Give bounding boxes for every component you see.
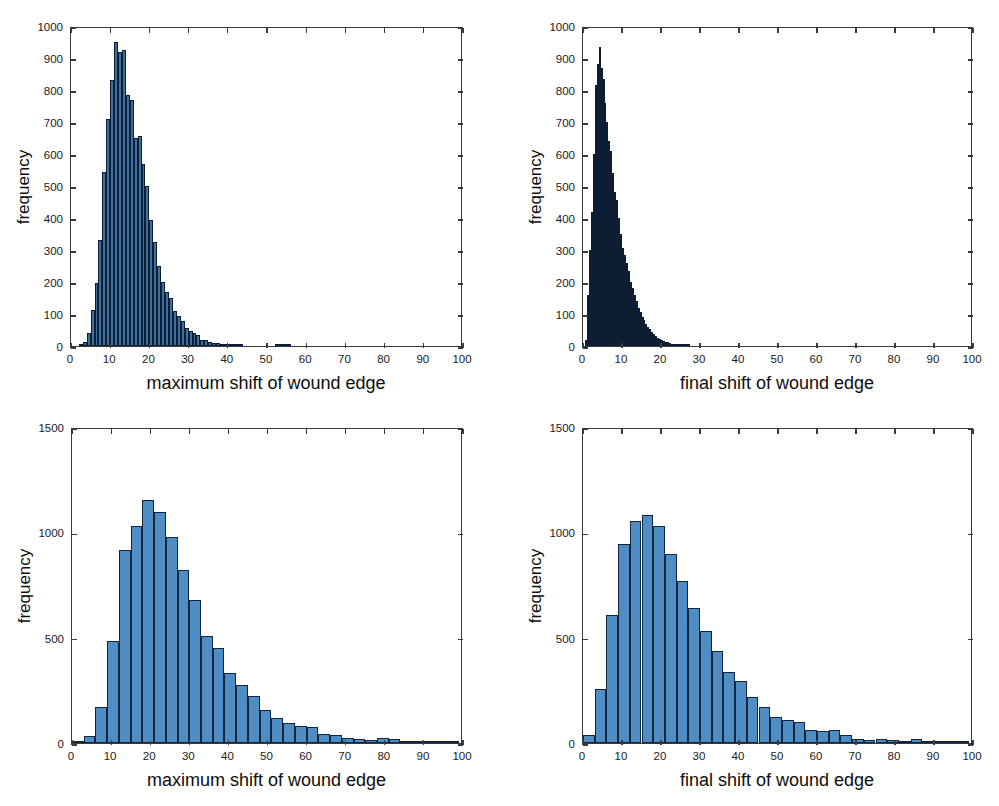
- x-axis-tick-label: 40: [732, 750, 745, 762]
- x-axis-tick: [855, 740, 856, 745]
- histogram-bar: [630, 521, 642, 743]
- histogram-bar: [712, 651, 724, 743]
- x-axis-tick: [621, 740, 622, 745]
- x-axis-tick-label: 0: [579, 750, 585, 762]
- x-axis-tick-top: [972, 429, 973, 434]
- histogram-bar: [606, 615, 618, 744]
- histogram-bar: [688, 608, 700, 743]
- x-axis-tick-label: 50: [771, 750, 784, 762]
- x-axis-tick: [894, 740, 895, 745]
- histogram-bar: [805, 730, 817, 743]
- y-axis-tick-label: 0: [569, 738, 575, 750]
- histogram-bar: [887, 740, 899, 743]
- x-axis-tick: [582, 740, 583, 745]
- y-axis-tick: [583, 744, 588, 745]
- histogram-bar: [840, 735, 852, 743]
- x-axis-tick-top: [738, 429, 739, 434]
- histogram-bar: [876, 739, 888, 743]
- histogram-bar: [759, 707, 771, 743]
- y-axis-tick-label: 500: [556, 633, 575, 645]
- histogram-bar: [817, 731, 829, 743]
- x-axis-tick-label: 10: [615, 750, 628, 762]
- histogram-bar: [735, 681, 747, 743]
- histogram-bar: [700, 631, 712, 743]
- x-axis-tick-top: [660, 429, 661, 434]
- x-axis-tick: [777, 740, 778, 745]
- histogram-bar: [653, 526, 665, 743]
- x-axis-tick: [738, 740, 739, 745]
- y-axis-tick-right: [968, 639, 973, 640]
- y-axis-tick-label: 1000: [549, 527, 575, 539]
- histogram-bar: [642, 515, 654, 743]
- bars-layer-bottom-right: [583, 429, 971, 743]
- histogram-bar: [911, 739, 923, 743]
- histogram-bar: [677, 581, 689, 743]
- histogram-bar: [618, 544, 630, 743]
- histogram-bar: [595, 689, 607, 743]
- chart-panel-bottom-right: 0500100015000102030405060708090100freque…: [0, 0, 999, 806]
- x-axis-tick-label: 80: [888, 750, 901, 762]
- x-axis-tick-top: [621, 429, 622, 434]
- x-axis-tick: [972, 740, 973, 745]
- x-axis-tick-label: 20: [654, 750, 667, 762]
- x-axis-tick-label: 30: [693, 750, 706, 762]
- histogram-bar: [957, 741, 969, 743]
- x-axis-title-bottom-right: final shift of wound edge: [680, 770, 874, 791]
- histogram-bar: [770, 717, 782, 743]
- x-axis-tick-label: 60: [810, 750, 823, 762]
- histogram-bar: [829, 730, 841, 743]
- histogram-bar: [665, 554, 677, 743]
- histogram-bar: [934, 741, 946, 743]
- x-axis-tick-top: [582, 429, 583, 434]
- x-axis-tick: [699, 740, 700, 745]
- x-axis-tick: [660, 740, 661, 745]
- histogram-bar: [782, 720, 794, 743]
- y-axis-tick: [583, 639, 588, 640]
- x-axis-tick-top: [855, 429, 856, 434]
- histogram-bar: [723, 672, 735, 743]
- histogram-bar: [922, 741, 934, 743]
- x-axis-tick-label: 100: [962, 750, 981, 762]
- x-axis-tick-top: [699, 429, 700, 434]
- plot-area-bottom-right: [582, 428, 972, 744]
- x-axis-tick-top: [894, 429, 895, 434]
- x-axis-tick: [933, 740, 934, 745]
- y-axis-tick: [583, 428, 588, 429]
- histogram-bar: [794, 722, 806, 743]
- x-axis-tick-label: 70: [849, 750, 862, 762]
- y-axis-tick: [583, 534, 588, 535]
- x-axis-tick-top: [777, 429, 778, 434]
- histogram-bar: [583, 735, 595, 743]
- histogram-bar: [864, 740, 876, 743]
- x-axis-tick-top: [933, 429, 934, 434]
- histogram-bar: [946, 741, 958, 743]
- histogram-bar: [747, 697, 759, 743]
- x-axis-tick: [816, 740, 817, 745]
- x-axis-tick-top: [816, 429, 817, 434]
- y-axis-title-bottom-right: frequency: [526, 511, 546, 661]
- y-axis-tick-label: 1500: [549, 422, 575, 434]
- y-axis-tick-right: [968, 534, 973, 535]
- histogram-bar: [852, 739, 864, 743]
- histogram-figure: 0100200300400500600700800900100001020304…: [0, 0, 999, 806]
- x-axis-tick-label: 90: [927, 750, 940, 762]
- histogram-bar: [899, 741, 911, 743]
